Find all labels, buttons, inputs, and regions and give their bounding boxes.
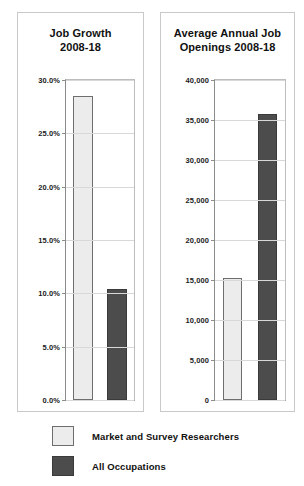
bar-market-and-survey-researchers (223, 278, 243, 400)
plot-area-job-growth: 0.0%5.0%10.0%15.0%20.0%25.0%30.0% (65, 79, 135, 401)
chart-title-line2: 2008-18 (22, 40, 139, 54)
y-axis-tick-label: 35,000 (185, 116, 209, 125)
y-axis-tick-label: 30,000 (185, 156, 209, 165)
y-tick-mark (211, 240, 215, 241)
y-tick-mark (211, 80, 215, 81)
y-axis-tick-label: 0 (205, 396, 209, 405)
y-axis-tick-label: 10.0% (38, 289, 60, 298)
y-axis-tick-label: 25,000 (185, 196, 209, 205)
y-tick-mark (211, 200, 215, 201)
y-gridline (66, 187, 134, 188)
y-tick-mark (62, 347, 66, 348)
chart-panel-job-growth: Job Growth 2008-18 0.0%5.0%10.0%15.0%20.… (17, 12, 144, 412)
y-tick-mark (211, 280, 215, 281)
y-gridline (215, 360, 285, 361)
bar-market-and-survey-researchers (73, 96, 92, 400)
y-axis-tick-label: 5,000 (190, 356, 209, 365)
y-gridline (66, 80, 134, 81)
y-gridline (215, 200, 285, 201)
legend-label: Market and Survey Researchers (92, 431, 239, 442)
y-tick-mark (62, 133, 66, 134)
y-tick-mark (211, 120, 215, 121)
y-tick-mark (211, 320, 215, 321)
y-tick-mark (62, 240, 66, 241)
legend-swatch-icon-dark (52, 456, 74, 476)
y-gridline (215, 160, 285, 161)
y-gridline (66, 293, 134, 294)
y-axis-tick-label: 15.0% (38, 236, 60, 245)
y-gridline (66, 400, 134, 401)
legend-item-market-and-survey-researchers: Market and Survey Researchers (0, 424, 304, 448)
y-tick-mark (62, 400, 66, 401)
legend-swatch-icon-light (52, 426, 74, 446)
y-axis-tick-label: 25.0% (38, 129, 60, 138)
chart-panel-annual-openings: Average Annual Job Openings 2008-18 05,0… (160, 12, 295, 412)
charts-container: Job Growth 2008-18 0.0%5.0%10.0%15.0%20.… (0, 0, 304, 418)
y-gridline (215, 320, 285, 321)
y-axis-tick-label: 30.0% (38, 76, 60, 85)
chart-legend: Market and Survey Researchers All Occupa… (0, 424, 304, 484)
bar-all-occupations (258, 114, 278, 400)
plot-area-annual-openings: 05,00010,00015,00020,00025,00030,00035,0… (214, 79, 286, 401)
y-gridline (215, 80, 285, 81)
legend-item-all-occupations: All Occupations (0, 454, 304, 478)
y-tick-mark (62, 187, 66, 188)
y-axis-tick-label: 5.0% (43, 342, 61, 351)
y-axis-tick-label: 0.0% (43, 396, 61, 405)
y-tick-mark (211, 160, 215, 161)
y-gridline (215, 280, 285, 281)
y-axis-tick-label: 15,000 (185, 276, 209, 285)
y-gridline (215, 120, 285, 121)
y-tick-mark (211, 360, 215, 361)
y-axis-tick-label: 10,000 (185, 316, 209, 325)
chart-title-line1: Average Annual Job (174, 27, 281, 39)
legend-label: All Occupations (92, 461, 166, 472)
y-gridline (66, 133, 134, 134)
y-gridline (66, 347, 134, 348)
y-gridline (215, 400, 285, 401)
y-tick-mark (62, 80, 66, 81)
bar-all-occupations (107, 289, 126, 400)
y-tick-mark (211, 400, 215, 401)
chart-title-annual-openings: Average Annual Job Openings 2008-18 (165, 26, 290, 54)
chart-title-job-growth: Job Growth 2008-18 (22, 26, 139, 54)
chart-title-line1: Job Growth (49, 27, 111, 39)
y-gridline (66, 240, 134, 241)
y-axis-tick-label: 20,000 (185, 236, 209, 245)
chart-title-line2: Openings 2008-18 (165, 40, 290, 54)
y-gridline (215, 240, 285, 241)
y-axis-tick-label: 40,000 (185, 76, 209, 85)
y-axis-tick-label: 20.0% (38, 182, 60, 191)
y-tick-mark (62, 293, 66, 294)
